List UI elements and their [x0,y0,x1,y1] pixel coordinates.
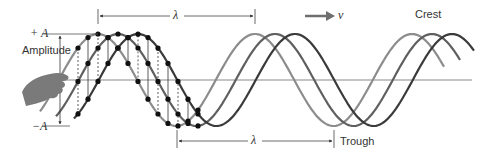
particle-dot [85,97,90,102]
particle-dot [165,97,170,102]
particle-dot [195,123,200,128]
minus-amplitude-label: −A [32,119,47,134]
velocity-arrow-icon [305,11,335,21]
particle-dot [175,111,180,116]
particle-dot [155,79,160,84]
particle-dot [125,35,130,40]
transverse-wave-diagram [0,0,498,162]
particle-dot [115,45,120,50]
trough-label: Trough [340,135,374,147]
amplitude-label: Amplitude [22,44,71,56]
crest-label: Crest [415,8,441,20]
particle-dot [165,61,170,66]
particle-dot [75,111,80,116]
particle-dot [165,121,170,126]
particle-dot [95,45,100,50]
particle-dot [135,45,140,50]
particle-dot [145,61,150,66]
particle-dot [75,45,80,50]
particle-dot [185,121,190,126]
particle-dot [145,97,150,102]
particle-dot [195,111,200,116]
particle-dot [135,31,140,36]
particle-dot [95,79,100,84]
particle-dot [155,111,160,116]
particle-dot [85,35,90,40]
particle-dot [105,35,110,40]
velocity-label: v [338,8,343,23]
plus-amplitude-label: + A [30,26,48,41]
particle-dot [175,79,180,84]
particle-dot [105,61,110,66]
wavelength-label-bottom: λ [251,133,256,148]
hand-icon [22,73,69,106]
particle-dot [145,35,150,40]
particle-dot [155,45,160,50]
wavelength-label-top: λ [173,8,178,23]
particle-dot [85,61,90,66]
particle-dot [75,79,80,84]
particle-dot [125,61,130,66]
particle-dot [135,79,140,84]
particle-dot [185,97,190,102]
particle-dot [115,31,120,36]
particle-dot [175,123,180,128]
